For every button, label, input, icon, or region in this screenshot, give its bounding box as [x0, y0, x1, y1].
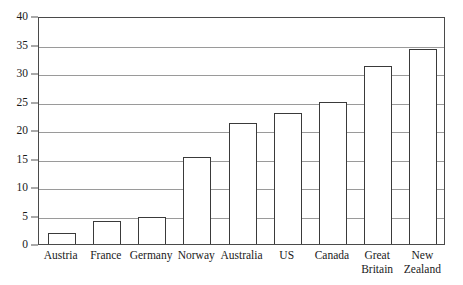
bar [319, 102, 347, 245]
bar [138, 217, 166, 244]
y-axis-tick-label: 40 [6, 11, 28, 23]
y-axis-tick-label: 25 [6, 97, 28, 109]
x-axis-tick-label: US [264, 248, 309, 262]
y-axis-tick-label: 30 [6, 68, 28, 80]
bar [229, 123, 257, 244]
x-axis-tick-label: Germany [128, 248, 173, 262]
y-axis-tick-mark [31, 74, 38, 75]
x-axis-tick-label: Australia [219, 248, 264, 262]
y-axis-tick-mark [31, 159, 38, 160]
x-axis-tick-labels: AustriaFranceGermanyNorwayAustraliaUSCan… [38, 248, 445, 285]
y-axis-tick-mark [31, 45, 38, 46]
x-axis-tick-label: Austria [38, 248, 83, 262]
bars-layer [39, 18, 444, 244]
x-axis-tick-label: New Zealand [400, 248, 445, 276]
y-axis-tick-mark [31, 245, 38, 246]
y-axis-tick-mark [31, 102, 38, 103]
x-axis-tick-label: Norway [174, 248, 219, 262]
y-axis-tick-label: 5 [6, 211, 28, 223]
y-axis-tick-mark [31, 17, 38, 18]
x-axis-tick-label: France [83, 248, 128, 262]
bar-chart: 0510152025303540 AustriaFranceGermanyNor… [0, 0, 463, 285]
bar [93, 221, 121, 244]
y-axis-tick-mark [31, 216, 38, 217]
bar [183, 157, 211, 244]
x-axis-tick-label: Canada [309, 248, 354, 262]
y-axis-tick-mark [31, 131, 38, 132]
bar [364, 66, 392, 244]
y-axis-tick-label: 10 [6, 182, 28, 194]
bar [409, 49, 437, 245]
x-axis-tick-label: Great Britain [355, 248, 400, 276]
y-axis-tick-label: 20 [6, 125, 28, 137]
bar [48, 233, 76, 244]
y-axis-tick-labels: 0510152025303540 [6, 0, 28, 285]
bar [274, 113, 302, 244]
y-axis-tick-label: 35 [6, 40, 28, 52]
plot-area [38, 17, 445, 245]
y-axis-tick-label: 0 [6, 239, 28, 251]
y-axis-tick-mark [31, 188, 38, 189]
y-axis-tick-label: 15 [6, 154, 28, 166]
